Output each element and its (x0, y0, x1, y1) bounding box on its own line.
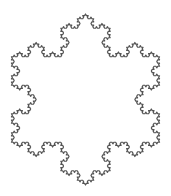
koch-snowflake (0, 0, 171, 196)
